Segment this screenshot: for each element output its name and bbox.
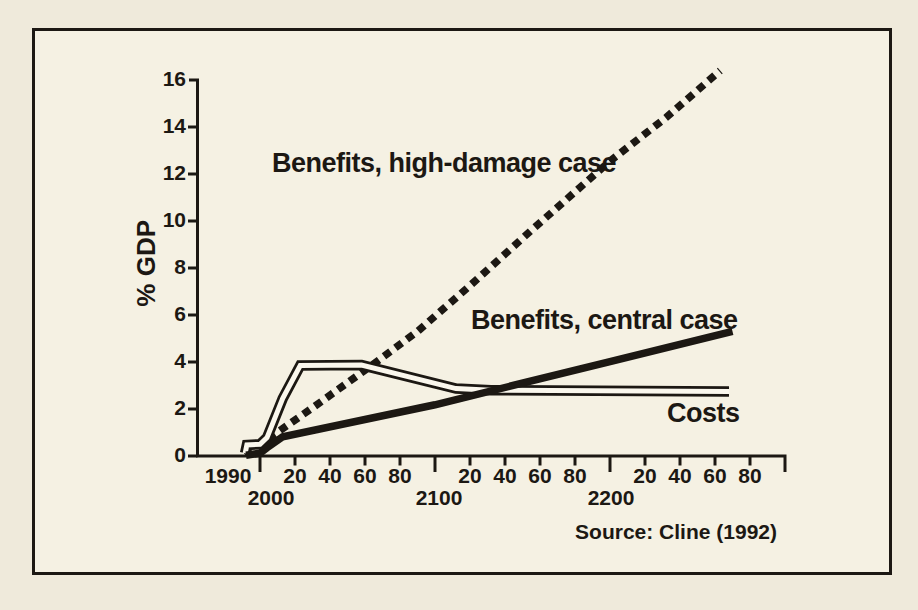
figure-page: 16 14 12 10 8 6 4 2 0 % GDP 1990 20 40 6…	[0, 0, 918, 610]
x-tick-label-2000: 2000	[243, 486, 299, 509]
y-tick-label-14: 14	[136, 114, 186, 137]
y-axis-title: % GDP	[132, 193, 161, 333]
y-tick-label-0: 0	[136, 443, 186, 466]
x-tick-label-1990: 1990	[200, 464, 256, 487]
y-tick-label-2: 2	[136, 396, 186, 419]
y-tick-label-12: 12	[136, 161, 186, 184]
series-costs-fill	[245, 365, 729, 453]
x-tick-label-2200: 2200	[583, 486, 639, 509]
annotation-costs: Costs	[667, 399, 740, 429]
series-costs-outline	[245, 365, 729, 453]
x-tick-label-2080: 80	[372, 464, 428, 487]
x-tick-label-2180: 80	[547, 464, 603, 487]
y-tick-label-4: 4	[136, 349, 186, 372]
annotation-benefits-central: Benefits, central case	[471, 306, 738, 336]
y-tick-label-16: 16	[136, 67, 186, 90]
source-note: Source: Cline (1992)	[497, 520, 777, 543]
x-tick-label-2280: 80	[722, 464, 778, 487]
annotation-benefits-high-damage: Benefits, high-damage case	[272, 149, 616, 179]
x-tick-label-2100: 2100	[411, 486, 467, 509]
